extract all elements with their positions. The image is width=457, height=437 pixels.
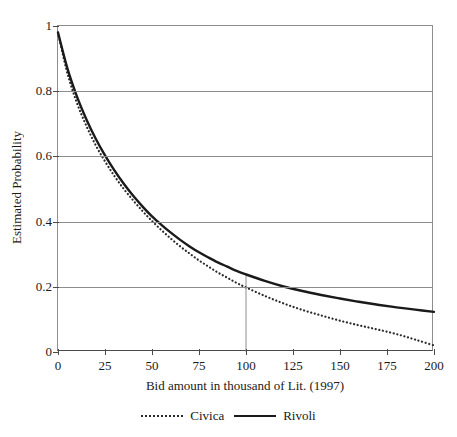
legend-entry-civica[interactable]: Civica	[141, 408, 224, 424]
y-tick-label: 1	[46, 18, 53, 34]
x-tick-label: 100	[236, 358, 256, 374]
legend-entry-rivoli[interactable]: Rivoli	[234, 408, 316, 424]
y-tick-mark	[53, 156, 59, 157]
y-tick-label: 0.2	[36, 279, 52, 295]
y-tick-mark	[53, 26, 59, 27]
legend-label: Rivoli	[283, 408, 316, 424]
y-gridline	[58, 91, 432, 92]
x-tick-mark	[434, 349, 435, 355]
x-tick-mark	[387, 349, 388, 355]
x-tick-mark	[199, 349, 200, 355]
legend-swatch-dotted-icon	[141, 415, 183, 417]
y-tick-label: 0.6	[36, 148, 52, 164]
x-tick-mark	[340, 349, 341, 355]
y-axis-title: Estimated Probability	[8, 25, 26, 351]
x-tick-label: 0	[55, 358, 62, 374]
series-line-rivoli	[58, 33, 434, 312]
x-tick-label: 75	[193, 358, 206, 374]
x-tick-mark	[152, 349, 153, 355]
y-tick-label: 0	[46, 344, 53, 360]
x-tick-mark	[246, 349, 247, 355]
y-gridline	[58, 287, 432, 288]
y-tick-mark	[53, 91, 59, 92]
plot-area: 00.20.40.60.810255075100125150175200	[57, 25, 433, 351]
x-tick-label: 25	[99, 358, 112, 374]
y-tick-label: 0.8	[36, 83, 52, 99]
y-tick-mark	[53, 222, 59, 223]
x-tick-mark	[58, 349, 59, 355]
legend-swatch-solid-icon	[234, 415, 276, 417]
x-axis-title: Bid amount in thousand of Lit. (1997)	[57, 378, 433, 394]
y-tick-label: 0.4	[36, 214, 52, 230]
figure-title-remnant	[285, 0, 405, 7]
x-tick-label: 50	[146, 358, 159, 374]
x-tick-label: 150	[330, 358, 350, 374]
chart-legend: CivicaRivoli	[0, 408, 457, 424]
x-tick-mark	[293, 349, 294, 355]
legend-label: Civica	[190, 408, 224, 424]
y-axis-title-label: Estimated Probability	[9, 131, 25, 244]
y-gridline	[58, 222, 432, 223]
y-gridline	[58, 156, 432, 157]
x-tick-label: 125	[283, 358, 303, 374]
chart-figure: Estimated Probability 00.20.40.60.810255…	[0, 0, 457, 437]
y-tick-mark	[53, 287, 59, 288]
x-tick-mark	[105, 349, 106, 355]
x-tick-label: 200	[424, 358, 444, 374]
series-lines	[58, 26, 434, 352]
x-tick-label: 175	[377, 358, 397, 374]
